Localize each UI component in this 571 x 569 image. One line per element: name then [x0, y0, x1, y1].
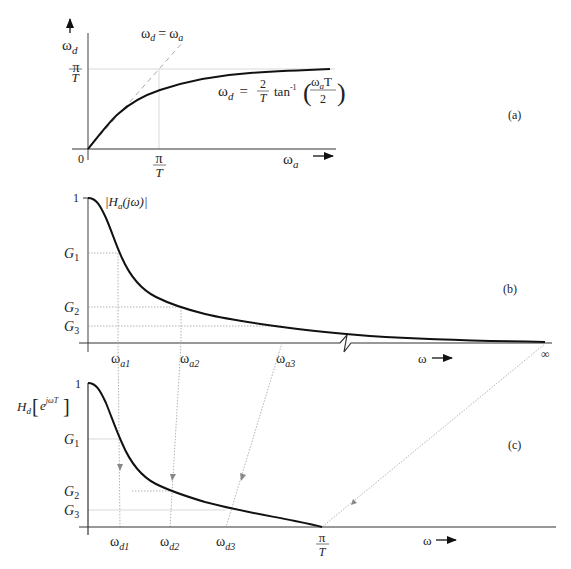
- x-tick-pi-over-t-num: π: [155, 151, 162, 166]
- identity-line: [88, 42, 183, 149]
- origin-label: 0: [78, 152, 84, 166]
- y-tick-pi-over-t-den: T: [71, 70, 79, 85]
- arrow-down-left-icon: [351, 499, 357, 505]
- y-tick-g2: G2: [64, 300, 79, 317]
- panel-a-label: (a): [508, 108, 521, 122]
- y-tick-g3: G3: [64, 503, 79, 520]
- panel-c: 1 G1 G2 G3 Hd [ ejωT ] ωd1 ωd2 ωd3 π T ω…: [16, 377, 556, 559]
- x-tick-wa1: ωa1: [111, 351, 130, 369]
- arrow-down-icon: [170, 474, 176, 481]
- panel-b: 1 G1 G2 G3 |Ha(jω)| ωa1 ωa2 ωa3 ω ∞ (b): [64, 191, 552, 369]
- svg-text:T: T: [260, 91, 268, 105]
- y-tick-1: 1: [73, 191, 79, 205]
- x-tick-wa2: ωa2: [180, 351, 199, 369]
- warping-formula: ωd= 2 T tan-1 ( ωaT 2 ): [218, 74, 346, 107]
- panel-c-y-title: Hd [ ejωT ]: [16, 395, 70, 417]
- svg-text:ωaT: ωaT: [311, 74, 332, 91]
- bilinear-transform-figure: ωd π T 0 π T ωa ωd=ωa ωd= 2 T tan-1 ( ωa…: [0, 0, 571, 569]
- x-axis-label: ωa: [283, 151, 299, 170]
- x-tick-pi-over-t-num: π: [319, 530, 326, 545]
- x-tick-pi-over-t-den: T: [155, 165, 163, 180]
- svg-text:ωd=: ωd=: [218, 83, 248, 102]
- arrow-down-icon: [117, 464, 123, 471]
- frequency-mapping-lines: [117, 343, 546, 527]
- x-tick-wd2: ωd2: [160, 534, 179, 552]
- map-wa3-to-wd3: [226, 343, 282, 527]
- y-axis-label: ωd: [62, 37, 78, 56]
- svg-text:]: ]: [63, 395, 70, 417]
- map-wa2-to-wd2: [170, 343, 181, 527]
- svg-text:2: 2: [320, 92, 326, 106]
- figure-canvas: ωd π T 0 π T ωa ωd=ωa ωd= 2 T tan-1 ( ωa…: [0, 0, 571, 569]
- svg-text:Hd: Hd: [16, 399, 31, 416]
- x-tick-wa3: ωa3: [276, 351, 295, 369]
- x-tick-pi-over-t-den: T: [319, 545, 327, 559]
- x-axis-label: ω: [418, 351, 427, 366]
- infinity-label: ∞: [541, 347, 550, 361]
- panel-c-label: (c): [508, 438, 521, 452]
- identity-line-label: ωd=ωa: [141, 26, 183, 43]
- digital-response-curve: [88, 383, 322, 527]
- y-tick-g1: G1: [64, 246, 79, 263]
- x-axis-with-break: [79, 335, 552, 352]
- svg-text:[: [: [32, 395, 39, 417]
- panel-b-title: |Ha(jω)|: [105, 194, 148, 211]
- map-infinity-to-pi-over-t: [322, 343, 546, 527]
- svg-text:tan-1: tan-1: [274, 83, 297, 99]
- y-tick-1: 1: [75, 377, 81, 391]
- y-tick-g3: G3: [64, 319, 79, 336]
- warping-curve: [88, 69, 330, 149]
- panel-a: ωd π T 0 π T ωa ωd=ωa ωd= 2 T tan-1 ( ωa…: [62, 19, 521, 180]
- arrow-down-icon: [240, 473, 246, 481]
- svg-text:): ): [337, 78, 346, 107]
- y-tick-g2: G2: [64, 484, 79, 501]
- svg-text:ejωT: ejωT: [40, 396, 59, 413]
- y-tick-g1: G1: [64, 432, 79, 449]
- x-tick-wd3: ωd3: [216, 534, 235, 552]
- x-tick-wd1: ωd1: [110, 534, 129, 552]
- analog-response-curve: [88, 198, 545, 342]
- x-axis-label: ω: [423, 533, 432, 548]
- panel-b-label: (b): [503, 282, 517, 296]
- svg-text:2: 2: [260, 77, 266, 91]
